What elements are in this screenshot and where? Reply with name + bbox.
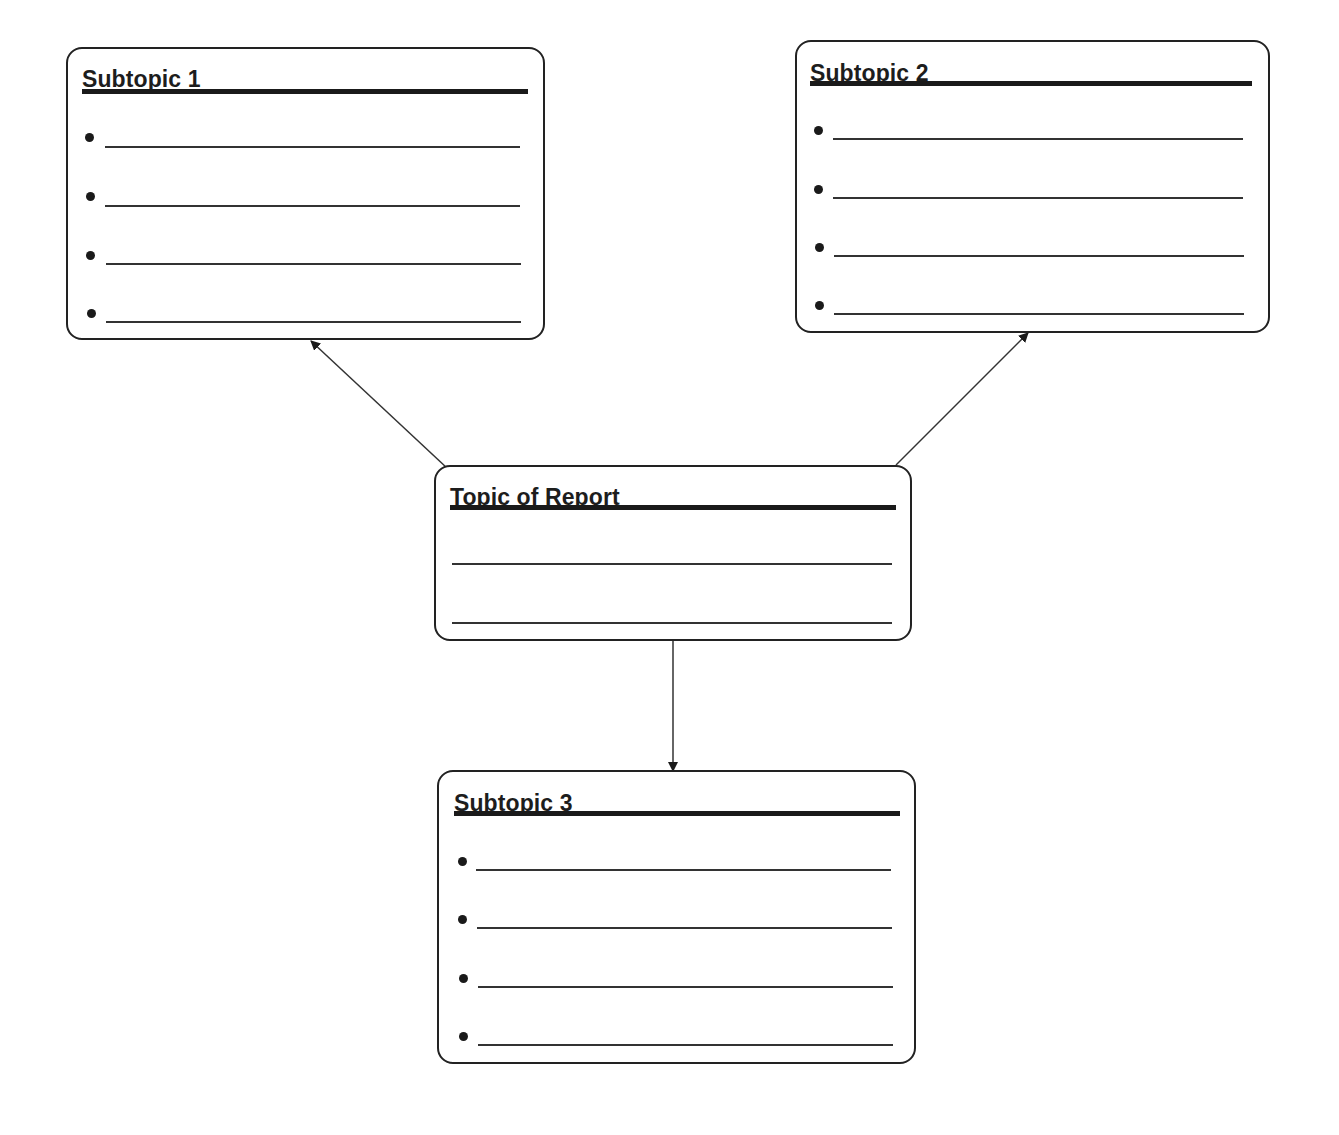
subtopic-3-line-3[interactable] [478, 986, 893, 988]
title-underline [450, 505, 896, 510]
subtopic-1-line-4[interactable] [106, 321, 521, 323]
bullet-icon [459, 1032, 468, 1041]
subtopic-2-line-3[interactable] [834, 255, 1244, 257]
subtopic-3-line-2[interactable] [477, 927, 892, 929]
arrow-to-subtopic-2 [896, 333, 1028, 465]
bullet-icon [815, 243, 824, 252]
bullet-icon [86, 192, 95, 201]
subtopic-2-line-2[interactable] [833, 197, 1243, 199]
arrow-to-subtopic-1 [311, 341, 447, 468]
topic-line-1[interactable] [452, 563, 892, 565]
subtopic-1-line-2[interactable] [105, 205, 520, 207]
subtopic-2-box: Subtopic 2 [795, 40, 1270, 333]
bullet-icon [814, 126, 823, 135]
bullet-icon [458, 915, 467, 924]
bullet-icon [87, 309, 96, 318]
bullet-icon [815, 301, 824, 310]
bullet-icon [85, 133, 94, 142]
title-underline [810, 81, 1252, 86]
topic-of-report-box: Topic of Report [434, 465, 912, 641]
bullet-icon [86, 251, 95, 260]
title-underline [82, 89, 528, 94]
bullet-icon [459, 974, 468, 983]
subtopic-2-line-4[interactable] [834, 313, 1244, 315]
subtopic-1-title: Subtopic 1 [82, 68, 201, 91]
subtopic-1-line-1[interactable] [105, 146, 520, 148]
bullet-icon [814, 185, 823, 194]
subtopic-3-line-4[interactable] [478, 1044, 893, 1046]
subtopic-1-line-3[interactable] [106, 263, 521, 265]
subtopic-3-line-1[interactable] [476, 869, 891, 871]
subtopic-3-box: Subtopic 3 [437, 770, 916, 1064]
topic-line-2[interactable] [452, 622, 892, 624]
subtopic-1-box: Subtopic 1 [66, 47, 545, 340]
subtopic-2-line-1[interactable] [833, 138, 1243, 140]
title-underline [454, 811, 900, 816]
bullet-icon [458, 857, 467, 866]
